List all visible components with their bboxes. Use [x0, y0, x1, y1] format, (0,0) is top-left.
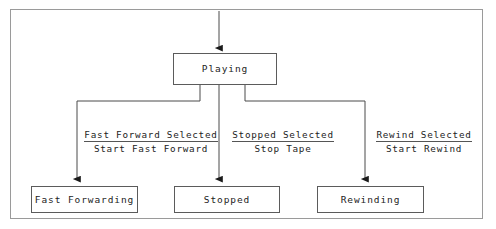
state-fast-forwarding[interactable]: Fast Forwarding — [31, 186, 138, 213]
state-playing-label: Playing — [202, 64, 248, 74]
state-rewinding[interactable]: Rewinding — [317, 186, 424, 213]
transition-action-stopped: Stop Tape — [228, 142, 338, 154]
transition-guard-stopped: Stopped Selected — [232, 130, 334, 142]
state-playing[interactable]: Playing — [173, 53, 277, 85]
state-fast-forwarding-label: Fast Forwarding — [35, 195, 134, 205]
state-rewinding-label: Rewinding — [341, 195, 401, 205]
transition-action-rewind: Start Rewind — [372, 142, 476, 154]
state-stopped[interactable]: Stopped — [174, 186, 280, 213]
state-stopped-label: Stopped — [204, 195, 250, 205]
transition-label-fast-forward: Fast Forward Selected Start Fast Forward — [81, 124, 221, 154]
transition-guard-fast-forward: Fast Forward Selected — [84, 130, 217, 142]
transition-action-fast-forward: Start Fast Forward — [81, 142, 221, 154]
transition-label-stopped: Stopped Selected Stop Tape — [228, 124, 338, 154]
transition-label-rewind: Rewind Selected Start Rewind — [372, 124, 476, 154]
transition-guard-rewind: Rewind Selected — [376, 130, 471, 142]
state-diagram-figure: Playing Fast Forwarding Stopped Rewindin… — [0, 0, 496, 229]
